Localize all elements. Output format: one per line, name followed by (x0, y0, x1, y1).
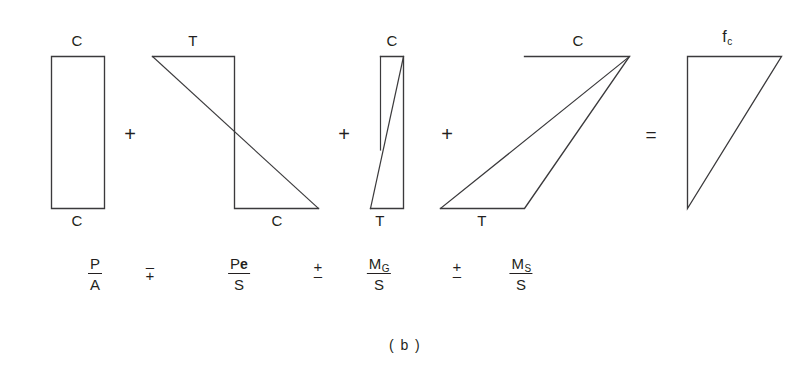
shape-axial-rectangle (52, 57, 105, 209)
shape-label-superimposed-bottom: T (477, 213, 486, 228)
formula-girder-numerator: MG (367, 256, 391, 272)
figure-canvas: C C T C C T C T fc + + + = P A – + Pe S … (0, 0, 811, 373)
formula-operator-bottom-2: – (314, 271, 323, 281)
formula-superimposed-moment: MS S (509, 256, 532, 292)
formula-prestress-denominator: S (228, 276, 250, 292)
stress-distribution-diagram (0, 0, 811, 373)
formula-axial: P A (88, 256, 102, 292)
formula-axial-denominator: A (88, 276, 102, 292)
shape-label-axial-top: C (71, 33, 82, 48)
shape-operator-plus-1: + (124, 124, 136, 144)
shape-resultant-triangle (688, 57, 782, 209)
shape-girder-moment-bowtie (371, 57, 404, 209)
formula-prestress-numerator: Pe (228, 256, 250, 272)
formula-axial-numerator: P (88, 256, 102, 272)
formula-prestress-p: P (230, 255, 240, 272)
shape-label-resultant-fc: fc (722, 29, 732, 45)
formula-prestress-bar (228, 273, 250, 274)
formula-girder-denominator: S (367, 276, 391, 292)
shape-operator-plus-3: + (441, 124, 453, 144)
formula-girder-m: M (369, 255, 382, 272)
formula-girder-subscript: G (382, 263, 390, 274)
figure-caption: ( b ) (389, 337, 421, 353)
shape-label-prestress-top: T (188, 33, 197, 48)
formula-operator-plus-over-minus-1: + – (314, 263, 323, 281)
formula-superimposed-subscript: S (524, 263, 531, 274)
shape-label-axial-bottom: C (71, 213, 82, 228)
resultant-symbol-subscript: c (727, 36, 732, 47)
formula-operator-plus-over-minus-2: + – (453, 263, 462, 281)
formula-superimposed-numerator: MS (509, 256, 532, 272)
formula-superimposed-denominator: S (509, 276, 532, 292)
formula-operator-minus-over-plus: – + (146, 263, 155, 281)
shape-label-girder-top: C (386, 33, 397, 48)
formula-operator-bottom-3: – (453, 271, 462, 281)
shape-label-prestress-bottom: C (271, 213, 282, 228)
shape-label-girder-bottom: T (375, 213, 384, 228)
formula-girder-moment: MG S (367, 256, 391, 292)
shape-operator-equals: = (645, 125, 656, 144)
shape-superimposed-moment-bowtie (441, 57, 630, 209)
formula-operator-bottom-1: + (146, 271, 155, 281)
shape-operator-plus-2: + (338, 124, 350, 144)
resultant-symbol: f (722, 28, 727, 45)
formula-prestress: Pe S (228, 256, 250, 292)
shape-prestress-bowtie (153, 57, 319, 209)
shape-label-superimposed-top: C (572, 33, 583, 48)
formula-prestress-eccentricity: e (240, 256, 248, 272)
formula-superimposed-m: M (511, 255, 524, 272)
formula-axial-bar (88, 273, 102, 274)
